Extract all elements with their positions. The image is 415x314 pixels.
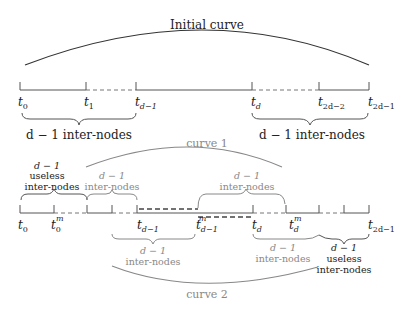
svg-text:d − 1: d − 1 [270, 242, 296, 253]
svg-text:inter-nodes: inter-nodes [126, 256, 181, 267]
brace-curve2-left [112, 234, 195, 244]
brace-curve2-mid-label: d − 1 inter-nodes [256, 242, 311, 264]
svg-text:d − 1: d − 1 [99, 170, 125, 181]
node-b-td-1: td−1 [137, 218, 159, 234]
svg-text:useless: useless [326, 253, 361, 264]
node-t2d-1: t2d−1 [368, 95, 395, 111]
curve1 [86, 147, 282, 167]
node-b-td: td [252, 218, 262, 234]
svg-text:d − 1: d − 1 [140, 245, 166, 256]
node-t0: t0 [18, 95, 28, 111]
svg-text:useless: useless [29, 170, 64, 181]
svg-text:inter-nodes: inter-nodes [25, 181, 80, 192]
top-right-brace [252, 113, 368, 125]
node-b-tdm: tdm [289, 214, 302, 234]
initial-curve [25, 30, 369, 65]
curve2-label: curve 2 [186, 288, 228, 301]
curve2 [112, 266, 318, 283]
top-left-brace-label: d − 1 inter-nodes [26, 128, 132, 142]
node-td-1: td−1 [135, 95, 157, 111]
brace-useless-right-label: d − 1 useless inter-nodes [317, 242, 372, 275]
node-td: td [251, 95, 261, 111]
top-node-labels: t0 t1 td−1 td t2d−2 t2d−1 [18, 95, 395, 111]
node-b-t2d-1: t2d−1 [368, 218, 395, 234]
node-b-t0: t0 [18, 218, 28, 234]
brace-curve1-right-label: d − 1 inter-nodes [220, 170, 275, 192]
brace-curve1-left-label: d − 1 inter-nodes [85, 170, 140, 192]
svg-text:inter-nodes: inter-nodes [317, 264, 372, 275]
brace-useless-left-label: d − 1 useless inter-nodes [25, 160, 80, 192]
knot-splitting-diagram: Initial curve t0 t1 td−1 td t2d−2 t2d−1 … [0, 0, 415, 314]
bottom-knot-axis [20, 205, 369, 213]
brace-curve2-left-label: d − 1 inter-nodes [126, 245, 181, 267]
top-right-brace-label: d − 1 inter-nodes [259, 128, 365, 142]
node-t2d-2: t2d−2 [318, 95, 345, 111]
top-knot-axis [20, 82, 369, 90]
svg-text:inter-nodes: inter-nodes [256, 253, 311, 264]
node-t1: t1 [84, 95, 94, 111]
brace-curve2-mid [253, 234, 319, 239]
svg-text:d − 1: d − 1 [331, 242, 357, 253]
top-left-brace [22, 113, 136, 125]
svg-text:d − 1: d − 1 [234, 170, 260, 181]
node-b-t0m: t0m [51, 214, 64, 234]
